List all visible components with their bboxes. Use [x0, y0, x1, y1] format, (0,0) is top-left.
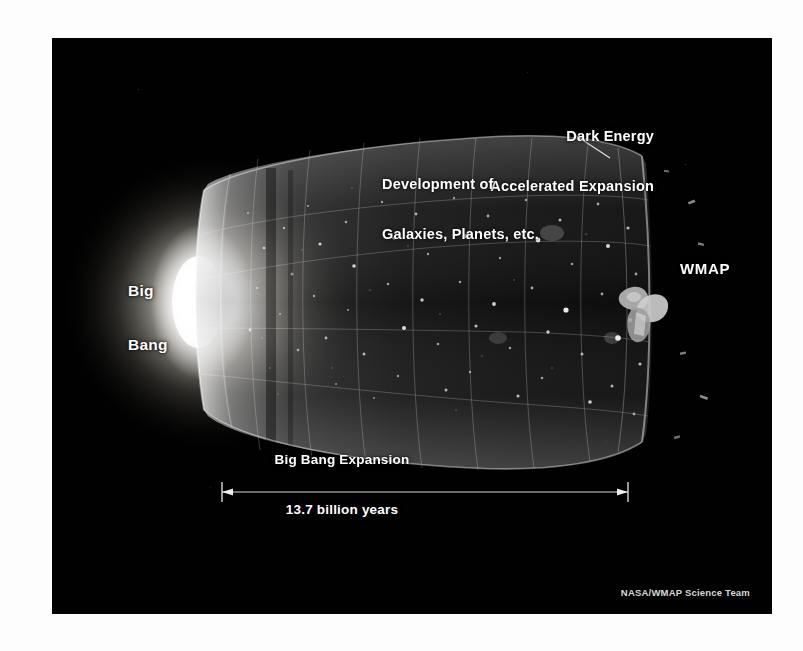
development-line-1: Development of — [382, 176, 539, 193]
big-bang-line-2: Bang — [128, 336, 168, 354]
scale-bar-arrow — [222, 482, 628, 502]
universe-timeline-image: Dark Energy Accelerated Expansion Develo… — [52, 38, 772, 614]
foreground-debris-specks — [664, 170, 708, 439]
figure-root: Dark Energy Accelerated Expansion Develo… — [0, 0, 803, 651]
annotation-wmap: WMAP — [680, 260, 730, 277]
development-line-2: Galaxies, Planets, etc. — [382, 226, 539, 243]
scale-bar-caption-below: 13.7 billion years — [52, 502, 772, 518]
big-bang-line-1: Big — [128, 282, 168, 300]
image-credit: NASA/WMAP Science Team — [621, 587, 750, 598]
scale-bar-caption-above: Big Bang Expansion — [52, 452, 772, 468]
annotation-development-of-galaxies: Development of Galaxies, Planets, etc. — [382, 142, 539, 277]
annotation-big-bang: Big Bang — [128, 246, 168, 390]
